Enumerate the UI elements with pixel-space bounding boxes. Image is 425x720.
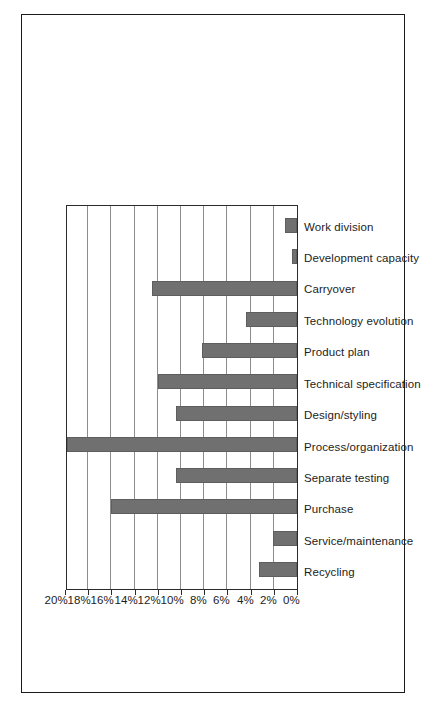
bar-slot <box>67 398 297 429</box>
category-slot: Design/styling <box>300 397 425 428</box>
y-tick-mark <box>227 590 228 595</box>
bar <box>285 218 297 233</box>
y-tick-mark <box>251 590 252 595</box>
bars-layer <box>67 206 297 589</box>
y-tick-label: 14% <box>114 594 138 606</box>
bar <box>176 468 297 483</box>
y-tick-mark <box>274 590 275 595</box>
category-label: Technology evolution <box>304 315 413 327</box>
plot-area <box>66 205 298 590</box>
y-tick-label: 6% <box>213 594 230 606</box>
y-tick-mark <box>135 590 136 595</box>
bar <box>292 249 297 264</box>
y-tick-label: 4% <box>237 594 254 606</box>
bar <box>246 312 297 327</box>
category-label: Development capacity <box>304 252 419 264</box>
bar <box>158 374 297 389</box>
bar <box>111 499 297 514</box>
y-tick-label: 12% <box>137 594 161 606</box>
category-label: Product plan <box>304 346 370 358</box>
y-tick-label: 0% <box>283 594 300 606</box>
y-tick-mark <box>297 590 298 595</box>
category-label: Carryover <box>304 284 355 296</box>
bar-slot <box>67 273 297 304</box>
y-tick-label: 16% <box>91 594 115 606</box>
category-slot: Carryover <box>300 272 425 303</box>
bar-slot <box>67 491 297 522</box>
y-tick-label: 18% <box>68 594 92 606</box>
bar <box>152 281 297 296</box>
category-slot: Recycling <box>300 555 425 586</box>
x-axis-category-labels: RecyclingService/maintenancePurchaseSepa… <box>300 205 425 590</box>
bar-slot <box>67 460 297 491</box>
page-border: 0%2%4%6%8%10%12%14%16%18%20% RecyclingSe… <box>21 14 405 693</box>
category-slot: Separate testing <box>300 460 425 491</box>
y-tick-mark <box>111 590 112 595</box>
y-tick-mark <box>181 590 182 595</box>
bar-slot <box>67 429 297 460</box>
bar-slot <box>67 335 297 366</box>
y-tick-mark <box>204 590 205 595</box>
bar-chart: 0%2%4%6%8%10%12%14%16%18%20% RecyclingSe… <box>34 30 425 590</box>
category-slot: Work division <box>300 209 425 240</box>
category-label: Purchase <box>304 503 353 515</box>
bar-slot <box>67 304 297 335</box>
bar-slot <box>67 523 297 554</box>
bar-slot <box>67 366 297 397</box>
bar <box>202 343 297 358</box>
y-tick-label: 10% <box>160 594 184 606</box>
category-label: Recycling <box>304 566 355 578</box>
bar-slot <box>67 241 297 272</box>
bar-slot <box>67 554 297 585</box>
bar <box>67 437 297 452</box>
bar <box>176 406 297 421</box>
category-label: Work division <box>304 221 373 233</box>
y-tick-mark <box>65 590 66 595</box>
bar <box>273 531 297 546</box>
y-tick-mark <box>158 590 159 595</box>
category-label: Service/maintenance <box>304 535 413 547</box>
bar-slot <box>67 210 297 241</box>
y-tick-label: 8% <box>190 594 207 606</box>
category-label: Process/organization <box>304 441 413 453</box>
y-tick-mark <box>88 590 89 595</box>
category-label: Design/styling <box>304 409 377 421</box>
category-slot: Technical specification <box>300 366 425 397</box>
y-tick-label: 2% <box>260 594 277 606</box>
category-slot: Product plan <box>300 335 425 366</box>
category-label: Separate testing <box>304 472 389 484</box>
bar <box>259 562 297 577</box>
category-label: Technical specification <box>304 378 421 390</box>
category-slot: Service/maintenance <box>300 523 425 554</box>
category-slot: Technology evolution <box>300 303 425 334</box>
y-tick-label: 20% <box>44 594 68 606</box>
category-slot: Process/organization <box>300 429 425 460</box>
rotated-figure: 0%2%4%6%8%10%12%14%16%18%20% RecyclingSe… <box>34 30 425 590</box>
category-slot: Purchase <box>300 492 425 523</box>
category-slot: Development capacity <box>300 240 425 271</box>
